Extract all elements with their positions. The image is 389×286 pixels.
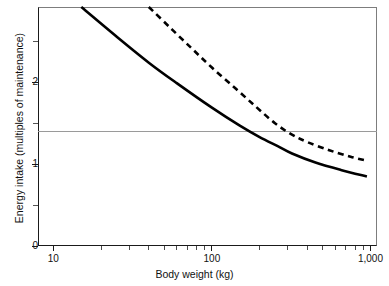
series-layer — [0, 0, 389, 286]
chart-figure: 012 Energy intake (multiples of maintena… — [0, 0, 389, 286]
solid-curve — [81, 7, 367, 176]
